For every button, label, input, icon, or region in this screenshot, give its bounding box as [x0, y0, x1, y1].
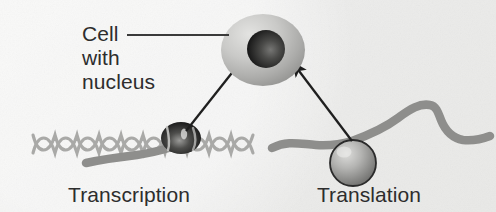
rna-polymerase	[161, 122, 201, 154]
cell-label-line-2: with	[82, 46, 155, 70]
nucleus-sphere	[247, 30, 285, 68]
translation-label: Translation	[290, 183, 448, 207]
cell-label-line-3: nucleus	[82, 70, 155, 94]
biology-diagram-figure: Cell with nucleus Transcription Translat…	[0, 0, 496, 212]
diagram-canvas	[0, 0, 496, 212]
arrow-translation-to-cell	[293, 63, 352, 141]
cell-group	[221, 14, 305, 86]
mrna-strand-translation	[272, 105, 490, 148]
cell-label: Cell with nucleus	[82, 22, 155, 94]
translation-group	[272, 63, 490, 186]
ribosome-sphere	[330, 140, 376, 186]
transcription-label: Transcription	[0, 183, 258, 207]
cell-label-line-1: Cell	[82, 22, 155, 46]
